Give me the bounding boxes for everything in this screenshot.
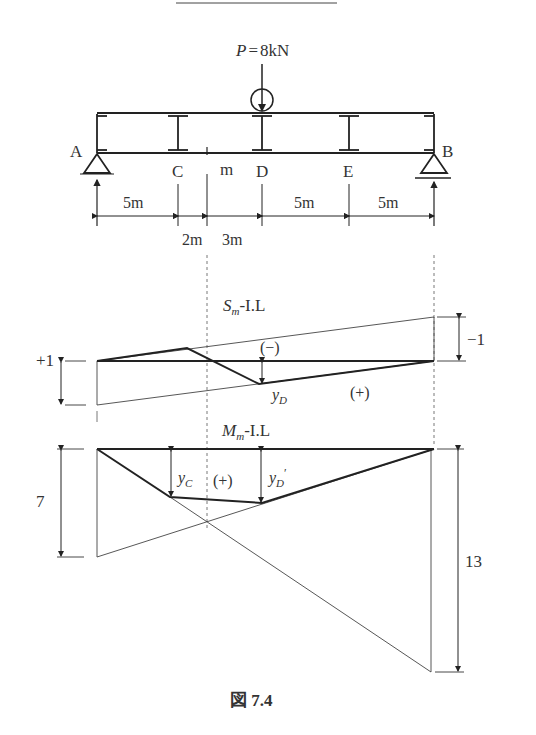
influence-line-diagram: P=8kN A C m D E B 5m 5m 5m 2m 3m Sm-I.L <box>0 0 536 735</box>
shear-pos-region: (+) <box>350 384 370 402</box>
figure-caption: 図 7.4 <box>230 691 273 710</box>
shear-influence-line: Sm-I.L +1 −1 (−) (+) yD <box>36 296 485 406</box>
shear-neg-region: (−) <box>260 339 280 357</box>
moment-influence-line: Mm-I.L 7 13 (+) yC yD′ <box>36 421 482 672</box>
moment-left-value: 7 <box>36 492 45 511</box>
dim-md: 3m <box>222 231 243 248</box>
moment-yd-label: yD′ <box>267 466 287 489</box>
moment-pos-region: (+) <box>213 472 233 490</box>
shear-left-value: +1 <box>36 351 54 370</box>
dim-de: 5m <box>294 194 315 211</box>
support-a-icon <box>80 154 114 226</box>
shear-il-title: Sm-I.L <box>223 296 265 317</box>
support-b-icon <box>415 154 451 226</box>
node-label-b: B <box>442 142 453 161</box>
shear-right-value: −1 <box>467 330 485 349</box>
node-label-m: m <box>220 160 233 179</box>
moment-right-value: 13 <box>465 552 482 571</box>
dim-eb: 5m <box>378 194 399 211</box>
node-label-a: A <box>70 142 83 161</box>
moment-il-title: Mm-I.L <box>221 421 270 442</box>
shear-yd-label: yD <box>270 386 287 406</box>
dim-ac: 5m <box>123 194 144 211</box>
dim-cm: 2m <box>182 231 203 248</box>
node-label-c: C <box>172 162 183 181</box>
node-label-e: E <box>343 162 353 181</box>
load-label: P=8kN <box>235 41 289 60</box>
moment-yc-label: yC <box>176 469 193 489</box>
node-label-d: D <box>256 162 268 181</box>
